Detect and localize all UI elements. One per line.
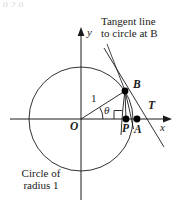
point-label-origin: O	[70, 120, 78, 133]
point-b-dot	[122, 88, 129, 95]
title-leader-line	[107, 44, 124, 88]
x-axis-label: x	[160, 121, 165, 133]
tangent-line-title-line-1: Tangent line	[101, 15, 158, 27]
radius-length-label: 1	[91, 92, 97, 104]
tangent-line-circle-figure: 0.2 0 Tangent line to circ	[0, 0, 183, 212]
point-label-a: A	[134, 123, 142, 136]
right-angle-marker	[114, 111, 123, 120]
tangent-line-title: Tangent line to circle at B	[101, 15, 158, 40]
point-a-dot	[134, 116, 141, 123]
circle-radius-caption: Circle of radius 1	[6, 167, 76, 192]
point-label-p: P	[122, 122, 129, 135]
angle-theta-label: θ	[104, 104, 109, 116]
point-label-b: B	[133, 78, 141, 91]
tangent-line-title-line-2: to circle at B	[101, 27, 158, 39]
angle-arc-theta	[100, 108, 103, 120]
circle-radius-caption-line-1: Circle of	[6, 167, 76, 179]
circle-radius-caption-line-2: radius 1	[6, 179, 76, 191]
point-label-t: T	[148, 99, 155, 112]
y-axis-arrowhead	[78, 27, 85, 36]
y-axis-label: y	[87, 26, 92, 38]
